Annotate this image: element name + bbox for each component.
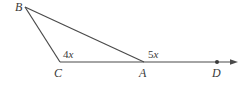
label-a: A <box>138 66 147 80</box>
angle-c-label: 4x <box>63 48 74 60</box>
label-d: D <box>211 66 221 80</box>
triangle-diagram: B C A D 4x 5x <box>0 0 246 87</box>
label-c: C <box>54 66 63 80</box>
point-d-dot <box>215 60 219 64</box>
ray-arrowhead-icon <box>230 59 238 64</box>
angle-a-exterior-label: 5x <box>148 48 159 60</box>
label-b: B <box>15 0 23 14</box>
